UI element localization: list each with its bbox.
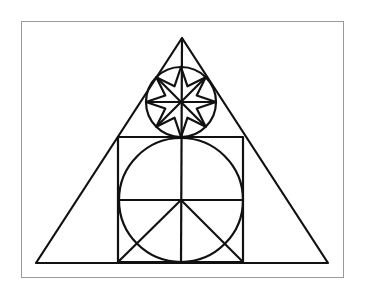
geometric-diagram xyxy=(0,0,370,298)
